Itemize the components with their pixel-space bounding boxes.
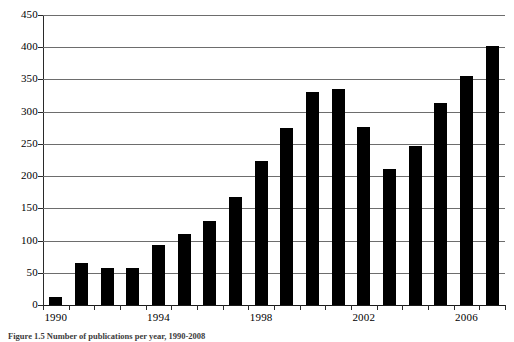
y-tick-label-100: 100 <box>2 235 38 246</box>
y-tick-label-0: 0 <box>2 299 38 310</box>
x-tick-mark-4 <box>146 305 147 310</box>
x-tick-mark-12 <box>351 305 352 310</box>
y-tick-label-150: 150 <box>2 202 38 213</box>
bar-1990 <box>49 297 62 305</box>
figure-caption: Figure 1.5 Number of publications per ye… <box>8 331 508 342</box>
x-tick-mark-0 <box>43 305 44 310</box>
bar-1993 <box>126 268 139 305</box>
plot-area <box>43 15 505 305</box>
x-tick-mark-11 <box>325 305 326 310</box>
x-tick-mark-17 <box>479 305 480 310</box>
bar-2005 <box>434 103 447 305</box>
x-tick-label-2002: 2002 <box>352 311 375 323</box>
x-tick-mark-7 <box>223 305 224 310</box>
y-tick-mark-200 <box>38 176 43 177</box>
y-tick-label-450: 450 <box>2 9 38 20</box>
x-tick-mark-2 <box>94 305 95 310</box>
bar-1999 <box>280 128 293 305</box>
x-tick-mark-15 <box>428 305 429 310</box>
x-axis-tick-labels: 19901994199820022006 <box>0 311 514 327</box>
y-tick-label-200: 200 <box>2 170 38 181</box>
x-tick-mark-8 <box>248 305 249 310</box>
y-tick-label-350: 350 <box>2 73 38 84</box>
x-tick-mark-10 <box>300 305 301 310</box>
bar-1997 <box>229 197 242 305</box>
y-tick-mark-250 <box>38 144 43 145</box>
bar-series <box>43 15 505 305</box>
x-tick-label-1998: 1998 <box>250 311 273 323</box>
bar-chart-figure: 050100150200250300350400450 199019941998… <box>0 0 514 342</box>
bar-2001 <box>332 89 345 305</box>
bar-1998 <box>255 161 268 305</box>
bar-2007 <box>486 46 499 305</box>
bar-2006 <box>460 76 473 305</box>
x-tick-mark-6 <box>197 305 198 310</box>
bar-2002 <box>357 127 370 305</box>
y-tick-mark-350 <box>38 79 43 80</box>
y-tick-mark-150 <box>38 208 43 209</box>
x-tick-mark-1 <box>69 305 70 310</box>
y-tick-mark-0 <box>38 305 43 306</box>
x-tick-label-2006: 2006 <box>455 311 478 323</box>
y-axis-tick-labels: 050100150200250300350400450 <box>0 0 38 342</box>
bar-1994 <box>152 245 165 305</box>
y-tick-label-50: 50 <box>2 267 38 278</box>
bar-1991 <box>75 263 88 305</box>
x-tick-mark-5 <box>171 305 172 310</box>
x-tick-mark-9 <box>274 305 275 310</box>
bar-2000 <box>306 92 319 305</box>
y-tick-mark-100 <box>38 241 43 242</box>
x-tick-label-1994: 1994 <box>147 311 170 323</box>
y-tick-label-300: 300 <box>2 106 38 117</box>
bar-2003 <box>383 169 396 305</box>
x-tick-mark-13 <box>377 305 378 310</box>
y-tick-mark-50 <box>38 273 43 274</box>
bar-1996 <box>203 221 216 305</box>
x-tick-mark-3 <box>120 305 121 310</box>
bar-2004 <box>409 146 422 305</box>
x-tick-label-1990: 1990 <box>44 311 67 323</box>
x-tick-mark-18 <box>505 305 506 310</box>
y-tick-label-250: 250 <box>2 138 38 149</box>
y-tick-mark-300 <box>38 112 43 113</box>
bar-1992 <box>101 268 114 305</box>
y-tick-mark-400 <box>38 47 43 48</box>
x-tick-mark-16 <box>454 305 455 310</box>
y-tick-mark-450 <box>38 15 43 16</box>
x-tick-mark-14 <box>402 305 403 310</box>
y-tick-label-400: 400 <box>2 41 38 52</box>
bar-1995 <box>178 234 191 305</box>
